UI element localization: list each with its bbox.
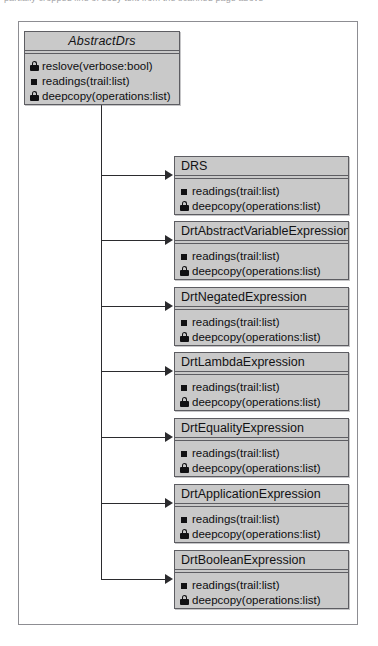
class-member-label: readings(trail:list) [192, 184, 280, 198]
uml-class-DrtApplicationExpression[interactable]: DrtApplicationExpressionreadings(trail:l… [174, 484, 349, 543]
inheritance-branch-line [101, 437, 165, 438]
page-top-text-fragment: partially cropped line of body text from… [0, 0, 378, 8]
inheritance-branch-line [101, 306, 165, 307]
class-member-label: readings(trail:list) [192, 249, 280, 263]
class-members-compartment: reslove(verbose:bool)readings(trail:list… [25, 54, 179, 108]
class-members-compartment: readings(trail:list)deepcopy(operations:… [175, 375, 348, 414]
padlock-icon [180, 332, 189, 342]
class-member: readings(trail:list) [180, 315, 343, 329]
class-member: deepcopy(operations:list) [180, 593, 343, 607]
inheritance-arrow-head [165, 498, 173, 508]
filled-square-icon [180, 514, 189, 524]
class-member-label: reslove(verbose:bool) [42, 59, 153, 73]
inheritance-arrow-head [165, 235, 173, 245]
class-members-compartment: readings(trail:list)deepcopy(operations:… [175, 179, 348, 218]
padlock-icon [30, 91, 39, 101]
class-members-compartment: readings(trail:list)deepcopy(operations:… [175, 507, 348, 546]
uml-class-DrtAbstractVariableExpression[interactable]: DrtAbstractVariableExpressionreadings(tr… [174, 221, 349, 280]
inheritance-branch-line [101, 371, 165, 372]
inheritance-trunk-line [101, 105, 102, 579]
class-member: readings(trail:list) [180, 578, 343, 592]
inheritance-branch-line [101, 175, 165, 176]
filled-square-icon [180, 317, 189, 327]
class-member: reslove(verbose:bool) [30, 59, 174, 73]
filled-square-icon [180, 448, 189, 458]
class-name-label: DrtNegatedExpression [175, 288, 348, 307]
uml-class-DRS[interactable]: DRSreadings(trail:list)deepcopy(operatio… [174, 156, 349, 215]
class-member: readings(trail:list) [180, 249, 343, 263]
padlock-icon [180, 266, 189, 276]
class-member: readings(trail:list) [180, 380, 343, 394]
class-name-label: DrtEqualityExpression [175, 419, 348, 438]
padlock-icon [180, 595, 189, 605]
inheritance-arrow-head [165, 301, 173, 311]
class-members-compartment: readings(trail:list)deepcopy(operations:… [175, 441, 348, 480]
class-member-label: readings(trail:list) [192, 446, 280, 460]
class-member-label: deepcopy(operations:list) [192, 527, 321, 541]
class-name-label: DrtAbstractVariableExpression [175, 222, 348, 241]
class-member-label: readings(trail:list) [192, 578, 280, 592]
class-member: readings(trail:list) [180, 446, 343, 460]
class-member-label: deepcopy(operations:list) [192, 330, 321, 344]
filled-square-icon [180, 186, 189, 196]
filled-square-icon [30, 76, 39, 86]
class-name-label: AbstractDrs [25, 32, 179, 51]
padlock-icon [180, 463, 189, 473]
inheritance-arrow-head [165, 170, 173, 180]
class-member: deepcopy(operations:list) [180, 199, 343, 213]
inheritance-branch-line [101, 579, 165, 580]
padlock-icon [180, 529, 189, 539]
page-top-text-fragment-label: partially cropped line of body text from… [4, 0, 263, 3]
class-member: deepcopy(operations:list) [180, 461, 343, 475]
class-member-label: deepcopy(operations:list) [192, 395, 321, 409]
uml-class-DrtNegatedExpression[interactable]: DrtNegatedExpressionreadings(trail:list)… [174, 287, 349, 346]
class-member-label: deepcopy(operations:list) [192, 264, 321, 278]
class-member-label: readings(trail:list) [192, 315, 280, 329]
class-member: deepcopy(operations:list) [180, 264, 343, 278]
class-member-label: readings(trail:list) [192, 380, 280, 394]
class-members-compartment: readings(trail:list)deepcopy(operations:… [175, 244, 348, 283]
class-member: deepcopy(operations:list) [180, 330, 343, 344]
inheritance-arrow-head [165, 366, 173, 376]
class-member-label: deepcopy(operations:list) [42, 89, 171, 103]
class-members-compartment: readings(trail:list)deepcopy(operations:… [175, 310, 348, 349]
class-name-label: DrtApplicationExpression [175, 485, 348, 504]
class-name-label: DRS [175, 157, 348, 176]
class-members-compartment: readings(trail:list)deepcopy(operations:… [175, 573, 348, 612]
padlock-icon [180, 201, 189, 211]
class-member-label: deepcopy(operations:list) [192, 461, 321, 475]
inheritance-branch-line [101, 240, 165, 241]
diagram-frame: AbstractDrsreslove(verbose:bool)readings… [18, 21, 358, 625]
inheritance-arrow-head [165, 432, 173, 442]
class-member-label: readings(trail:list) [42, 74, 130, 88]
padlock-icon [180, 397, 189, 407]
class-member: readings(trail:list) [180, 512, 343, 526]
uml-class-DrtEqualityExpression[interactable]: DrtEqualityExpressionreadings(trail:list… [174, 418, 349, 477]
class-name-label: DrtBooleanExpression [175, 551, 348, 570]
inheritance-arrow-head [165, 574, 173, 584]
class-member: deepcopy(operations:list) [30, 89, 174, 103]
class-member: readings(trail:list) [30, 74, 174, 88]
class-member: readings(trail:list) [180, 184, 343, 198]
class-member-label: deepcopy(operations:list) [192, 199, 321, 213]
uml-class-DrtLambdaExpression[interactable]: DrtLambdaExpressionreadings(trail:list)d… [174, 352, 349, 411]
class-name-label: DrtLambdaExpression [175, 353, 348, 372]
inheritance-branch-line [101, 503, 165, 504]
filled-square-icon [180, 251, 189, 261]
uml-class-AbstractDrs[interactable]: AbstractDrsreslove(verbose:bool)readings… [24, 31, 180, 105]
class-member-label: deepcopy(operations:list) [192, 593, 321, 607]
uml-class-DrtBooleanExpression[interactable]: DrtBooleanExpressionreadings(trail:list)… [174, 550, 349, 609]
class-member-label: readings(trail:list) [192, 512, 280, 526]
class-member: deepcopy(operations:list) [180, 395, 343, 409]
filled-square-icon [180, 580, 189, 590]
filled-square-icon [180, 382, 189, 392]
class-member: deepcopy(operations:list) [180, 527, 343, 541]
padlock-icon [30, 61, 39, 71]
